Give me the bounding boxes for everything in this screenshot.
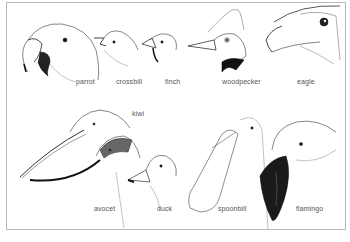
label-spoonbill: spoonbill bbox=[218, 205, 247, 212]
label-kiwi: kiwi bbox=[132, 110, 144, 117]
duck-head-drawing bbox=[128, 155, 176, 210]
label-duck: duck bbox=[157, 205, 172, 212]
label-finch: finch bbox=[165, 78, 180, 85]
label-avocet: avocet bbox=[94, 205, 115, 212]
crossbill-head-drawing bbox=[94, 31, 138, 66]
label-flamingo: flamingo bbox=[296, 205, 323, 212]
label-eagle: eagle bbox=[297, 78, 315, 85]
label-woodpecker: woodpecker bbox=[222, 78, 261, 85]
parrot-head-drawing bbox=[23, 24, 99, 82]
avocet-head-drawing bbox=[30, 136, 140, 228]
spoonbill-head-drawing bbox=[189, 118, 268, 230]
finch-head-drawing bbox=[142, 34, 177, 62]
eagle-head-drawing bbox=[266, 6, 340, 64]
label-crossbill: crossbill bbox=[116, 78, 142, 85]
woodpecker-head-drawing bbox=[188, 9, 246, 72]
label-parrot: parrot bbox=[76, 78, 95, 85]
